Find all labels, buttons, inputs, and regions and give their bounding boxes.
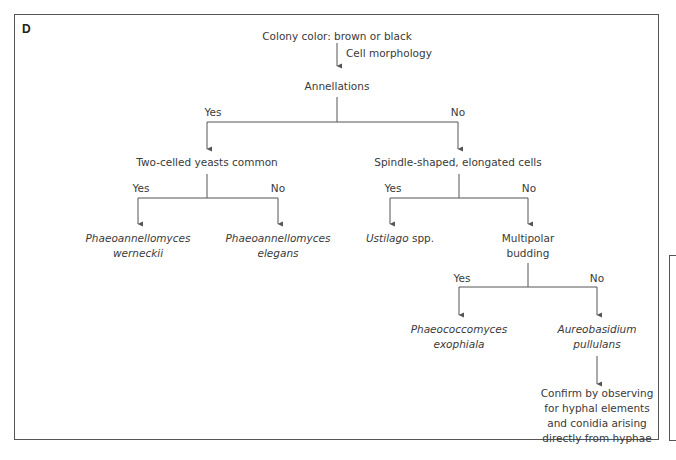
leaf-line-2: werneckii — [86, 246, 191, 261]
node-multipolar-budding: Multipolar budding — [502, 231, 554, 261]
note-confirm-hyphal: Confirm by observing for hyphal elements… — [541, 386, 654, 446]
leaf-aureobasidium-pullulans: Aureobasidium pullulans — [558, 322, 637, 352]
leaf-line-1: Phaeococcomyces — [411, 322, 508, 337]
edge-label-multipolar-yes: Yes — [454, 272, 471, 285]
note-line-2: for hyphal elements — [541, 401, 654, 416]
leaf-genus: Ustilago — [366, 232, 409, 244]
edge-label-spindle-no: No — [522, 182, 536, 195]
leaf-line-2: exophiala — [411, 337, 508, 352]
node-colony-color: Colony color: brown or black — [262, 29, 412, 44]
leaf-line-2: pullulans — [558, 337, 637, 352]
leaf-line-1: Phaeoannellomyces — [86, 231, 191, 246]
node-spindle-shaped: Spindle-shaped, elongated cells — [374, 155, 541, 170]
note-line-3: and conidia arising — [541, 416, 654, 431]
node-annellations: Annellations — [305, 79, 370, 94]
node-two-celled-yeasts: Two-celled yeasts common — [136, 155, 277, 170]
leaf-line-1: Phaeoannellomyces — [226, 231, 331, 246]
node-line-2: budding — [502, 246, 554, 261]
leaf-line-1: Aureobasidium — [558, 322, 637, 337]
leaf-phaeoannellomyces-werneckii: Phaeoannellomyces werneckii — [86, 231, 191, 261]
node-line-1: Multipolar — [502, 231, 554, 246]
leaf-phaeococcomyces-exophiala: Phaeococcomyces exophiala — [411, 322, 508, 352]
edge-label-two-celled-no: No — [271, 182, 285, 195]
leaf-phaeoannellomyces-elegans: Phaeoannellomyces elegans — [226, 231, 331, 261]
edge-label-two-celled-yes: Yes — [133, 182, 150, 195]
note-line-4: directly from hyphae — [541, 431, 654, 446]
leaf-suffix: spp. — [409, 232, 434, 244]
edge-label-annellations-no: No — [451, 106, 465, 119]
leaf-line-2: elegans — [226, 246, 331, 261]
edge-label-cell-morphology: Cell morphology — [346, 47, 432, 60]
edge-label-annellations-yes: Yes — [205, 106, 222, 119]
leaf-ustilago: Ustilago spp. — [366, 231, 434, 246]
edge-label-multipolar-no: No — [590, 272, 604, 285]
note-line-1: Confirm by observing — [541, 386, 654, 401]
edge-label-spindle-yes: Yes — [385, 182, 402, 195]
